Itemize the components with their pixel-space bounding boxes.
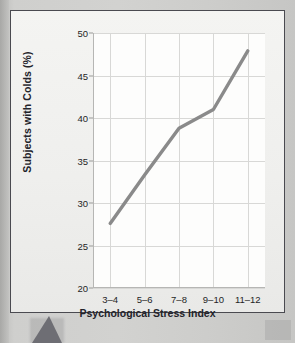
line-series <box>93 33 265 288</box>
x-tick-label: 7–8 <box>171 294 187 305</box>
y-tick-label: 40 <box>77 113 88 124</box>
y-tick-label: 35 <box>77 155 88 166</box>
gridline-horizontal <box>93 288 265 289</box>
y-tick-label: 25 <box>77 240 88 251</box>
y-tick-label: 50 <box>77 28 88 39</box>
x-tick-label: 11–12 <box>235 294 261 305</box>
y-tick-mark <box>89 245 93 246</box>
plot-area: 202530354045503–45–67–89–1011–12 <box>93 33 265 288</box>
x-tick-label: 3–4 <box>102 294 118 305</box>
x-tick-label: 5–6 <box>137 294 153 305</box>
y-tick-label: 45 <box>77 70 88 81</box>
y-tick-mark <box>89 75 93 76</box>
y-tick-label: 20 <box>77 283 88 294</box>
y-tick-mark <box>89 160 93 161</box>
y-tick-mark <box>89 33 93 34</box>
y-tick-mark <box>89 118 93 119</box>
y-tick-mark <box>89 203 93 204</box>
y-tick-label: 30 <box>77 198 88 209</box>
figure-frame: Subjects with Colds (%) 202530354045503–… <box>10 10 285 313</box>
y-axis-title: Subjects with Colds (%) <box>21 27 33 197</box>
pointer-triangle-icon <box>32 316 62 343</box>
page-smudge <box>265 320 291 340</box>
x-tick-label: 9–10 <box>203 294 224 305</box>
y-tick-mark <box>89 288 93 289</box>
